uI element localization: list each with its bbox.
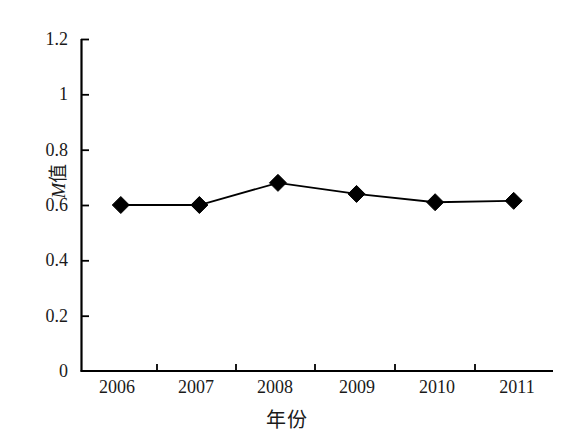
data-point-2010 (427, 194, 444, 211)
data-point-2008 (269, 174, 286, 191)
series-line-m-value (121, 183, 514, 205)
x-axis-title: 年份 (0, 404, 573, 433)
line-chart: M值 1.2 1 0.8 0.6 0.4 0.2 0 2006 2007 200… (0, 0, 573, 448)
data-point-2011 (505, 192, 522, 209)
data-point-2009 (348, 185, 365, 202)
data-point-2006 (112, 197, 129, 214)
plot-area (0, 0, 573, 448)
data-point-2007 (191, 197, 208, 214)
series-markers (112, 174, 522, 213)
